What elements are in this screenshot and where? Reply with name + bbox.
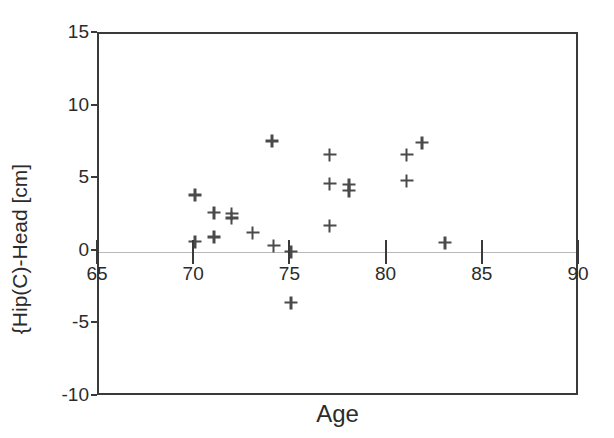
y-tick-label: -10 bbox=[47, 384, 89, 406]
data-point bbox=[439, 237, 452, 250]
marker-vertical-stroke bbox=[251, 226, 253, 239]
data-point bbox=[285, 245, 298, 258]
y-tick-mark bbox=[91, 394, 97, 396]
x-tick-mark bbox=[288, 240, 290, 264]
y-tick-label: -5 bbox=[47, 311, 89, 333]
data-point bbox=[323, 148, 336, 161]
x-axis-title: Age bbox=[97, 400, 578, 428]
x-tick-label: 85 bbox=[471, 263, 492, 285]
marker-vertical-stroke bbox=[328, 219, 330, 232]
x-tick-label: 70 bbox=[183, 263, 204, 285]
marker-vertical-stroke bbox=[273, 239, 275, 252]
x-tick-label: 80 bbox=[375, 263, 396, 285]
marker-vertical-stroke bbox=[328, 148, 330, 161]
data-point bbox=[400, 148, 413, 161]
y-axis-title: {Hip(C)-Head [cm] bbox=[0, 0, 40, 438]
x-tick-label: 65 bbox=[86, 263, 107, 285]
y-tick-mark bbox=[91, 31, 97, 33]
marker-vertical-stroke bbox=[213, 206, 215, 219]
marker-vertical-stroke bbox=[348, 184, 350, 197]
marker-vertical-stroke bbox=[444, 237, 446, 250]
marker-vertical-stroke bbox=[230, 212, 232, 225]
scatter-plot-figure: {Hip(C)-Head [cm] 657075808590 -10-50510… bbox=[0, 0, 614, 438]
data-point bbox=[400, 174, 413, 187]
marker-vertical-stroke bbox=[194, 189, 196, 202]
plot-area bbox=[97, 32, 578, 395]
y-tick-label: 5 bbox=[47, 166, 89, 188]
y-tick-mark bbox=[91, 104, 97, 106]
data-point bbox=[285, 296, 298, 309]
data-point bbox=[225, 212, 238, 225]
data-point bbox=[246, 226, 259, 239]
y-tick-label: 15 bbox=[47, 21, 89, 43]
marker-vertical-stroke bbox=[213, 231, 215, 244]
marker-vertical-stroke bbox=[290, 296, 292, 309]
marker-vertical-stroke bbox=[405, 148, 407, 161]
data-point bbox=[268, 239, 281, 252]
data-point bbox=[208, 206, 221, 219]
x-tick-mark bbox=[192, 240, 194, 264]
data-point bbox=[266, 135, 279, 148]
marker-vertical-stroke bbox=[421, 136, 423, 149]
y-tick-label: 10 bbox=[47, 94, 89, 116]
y-tick-mark bbox=[91, 321, 97, 323]
data-point bbox=[189, 189, 202, 202]
y-tick-mark bbox=[91, 176, 97, 178]
marker-vertical-stroke bbox=[328, 177, 330, 190]
x-tick-mark bbox=[481, 240, 483, 264]
data-point bbox=[189, 235, 202, 248]
y-axis-title-text: {Hip(C)-Head [cm] bbox=[8, 164, 32, 334]
data-point bbox=[323, 219, 336, 232]
x-tick-mark bbox=[96, 240, 98, 264]
data-point bbox=[343, 184, 356, 197]
marker-vertical-stroke bbox=[271, 135, 273, 148]
y-tick-mark bbox=[91, 249, 97, 251]
zero-reference-line bbox=[99, 252, 576, 253]
data-point bbox=[208, 231, 221, 244]
x-tick-mark bbox=[385, 240, 387, 264]
x-tick-label: 90 bbox=[567, 263, 588, 285]
data-point bbox=[323, 177, 336, 190]
data-point bbox=[416, 136, 429, 149]
x-tick-label: 75 bbox=[279, 263, 300, 285]
x-tick-mark bbox=[577, 240, 579, 264]
marker-vertical-stroke bbox=[405, 174, 407, 187]
y-tick-label: 0 bbox=[47, 239, 89, 261]
